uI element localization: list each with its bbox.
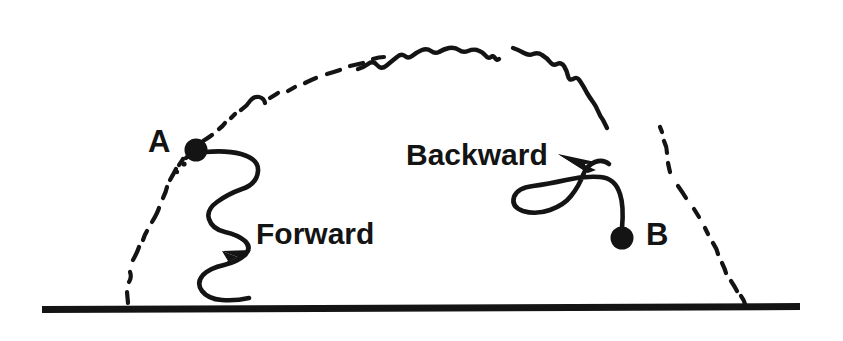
point-b-label: B <box>646 219 669 250</box>
point-a-label: A <box>148 126 171 157</box>
forward-arrow-label: Forward <box>256 219 374 249</box>
backward-arrow-label: Backward <box>406 140 548 170</box>
ground-line <box>42 303 800 313</box>
diagram-canvas: A B Forward Backward <box>0 0 843 341</box>
trajectory-arc-left-leg <box>127 156 188 303</box>
point-a-marker <box>175 139 208 175</box>
forward-arrow <box>199 151 258 300</box>
trajectory-arc-right-shoulder <box>513 48 607 128</box>
trajectory-arc-right-leg <box>660 127 745 304</box>
forward-arrowhead <box>214 249 251 270</box>
